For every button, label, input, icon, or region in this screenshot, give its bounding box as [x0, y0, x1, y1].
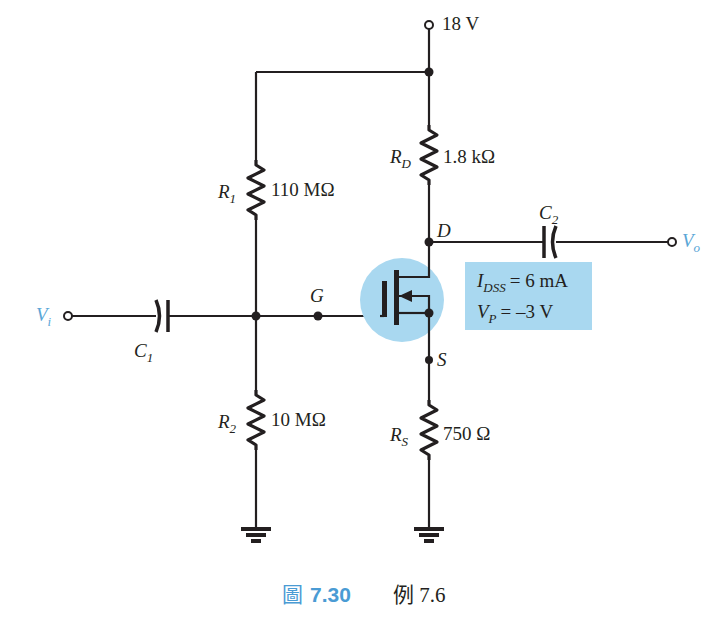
c1-capacitor: [156, 300, 168, 332]
figure-caption-text: 例 7.6: [393, 583, 446, 607]
rd-resistor: [421, 125, 437, 185]
gate-node: [314, 312, 323, 321]
figure-caption: 圖 7.30 例 7.6: [282, 583, 446, 607]
svg-text:18 V: 18 V: [442, 13, 479, 34]
source-label: S: [437, 349, 447, 370]
rs-label: RS: [389, 424, 409, 449]
r1-resistor: [248, 160, 264, 220]
supply-terminal: 18 V: [425, 13, 479, 72]
c2-capacitor: [544, 226, 556, 258]
r2-label: R2: [217, 411, 237, 436]
c1-label: C1: [134, 340, 153, 365]
rs-value: 750 Ω: [443, 423, 490, 444]
rs-resistor: [421, 400, 437, 460]
drain-label: D: [436, 220, 451, 241]
r2-resistor: [248, 390, 264, 450]
input-label: Vi: [36, 304, 52, 329]
rd-label: RD: [389, 146, 412, 171]
source-node: [425, 356, 433, 364]
rd-value: 1.8 kΩ: [443, 146, 495, 167]
c2-label: C2: [539, 202, 559, 227]
supply-label: 18 V: [442, 13, 479, 34]
r1-value: 110 MΩ: [271, 179, 335, 200]
ground-icon: [241, 527, 271, 543]
figure-number: 7.30: [310, 583, 351, 606]
output-terminal: [668, 238, 676, 246]
figure-glyph-icon: 圖: [282, 583, 303, 606]
output-label: Vo: [682, 230, 701, 255]
input-terminal: [64, 312, 72, 320]
ground-icon: [414, 527, 444, 543]
jfet-highlight: [360, 258, 444, 342]
r2-value: 10 MΩ: [271, 409, 326, 430]
r1-label: R1: [217, 181, 236, 206]
circuit-diagram: 18 V R1 110 MΩ Vi C1 G R2 10 MΩ RD 1.8 k…: [0, 0, 723, 640]
gate-label: G: [310, 285, 324, 306]
